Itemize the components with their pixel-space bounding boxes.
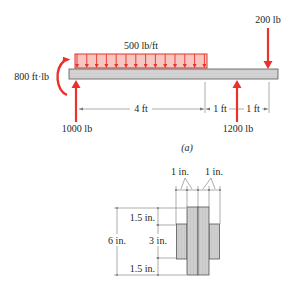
reaction-left-label: 1000 lb (62, 123, 92, 134)
dim-1ft-a-label: 1 ft (213, 103, 227, 114)
cs-overall-height-label: 6 in. (108, 235, 126, 246)
cs-top-dim-right-label: 1 in. (205, 166, 223, 177)
point-load-arrowhead-icon (264, 61, 273, 69)
beam (69, 69, 278, 79)
cs-top-dim-left-label: 1 in. (171, 166, 189, 177)
reaction-left-arrowhead-icon (72, 80, 81, 88)
figure: 500 lb/ft 800 ft·lb 200 lb 1000 lb 1200 … (0, 0, 298, 285)
figure-caption: (a) (181, 142, 193, 154)
moment-arc-icon (58, 61, 67, 95)
cross-section (114, 178, 221, 276)
dim-4ft-label: 4 ft (134, 103, 148, 114)
distributed-load (75, 54, 207, 68)
beam-figure-svg: 500 lb/ft 800 ft·lb 200 lb 1000 lb 1200 … (0, 0, 298, 285)
dim-1ft-b-label: 1 ft (246, 103, 260, 114)
reaction-right-arrowhead-icon (233, 80, 242, 88)
point-load-label: 200 lb (255, 14, 280, 25)
cs-middle-segment-label: 3 in. (149, 235, 167, 246)
reaction-right-label: 1200 lb (223, 123, 253, 134)
moment-label: 800 ft·lb (14, 71, 49, 82)
cs-top-segment-label: 1.5 in. (130, 212, 155, 223)
cs-bottom-segment-label: 1.5 in. (130, 263, 155, 274)
distributed-load-label: 500 lb/ft (124, 40, 158, 51)
